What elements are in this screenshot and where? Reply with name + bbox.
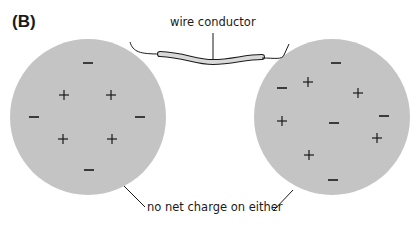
diagram-canvas: [0, 0, 418, 228]
no-net-charge-label: no net charge on either: [147, 200, 283, 214]
wire-conductor-label: wire conductor: [170, 15, 256, 29]
figure: (B) wire conductor no net charge on eith…: [0, 0, 418, 228]
sphere-right: [254, 39, 410, 195]
wire-lead-left: [130, 42, 160, 54]
charge-label-leader-left: [124, 186, 145, 207]
sphere-left: [10, 39, 166, 195]
panel-label: (B): [12, 12, 36, 32]
wire-conductor: [130, 42, 289, 62]
